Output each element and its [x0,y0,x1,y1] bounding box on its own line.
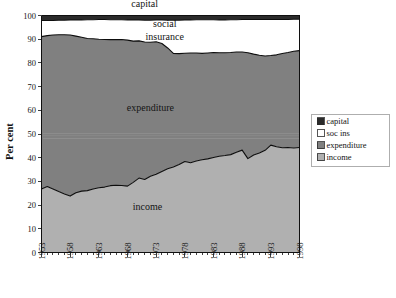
legend-swatch-expenditure [317,142,324,149]
annotation-capital: capital [131,0,158,9]
legend-label-expenditure: expenditure [327,140,367,150]
legend-swatch-income [317,154,324,161]
annotation-insurance: insurance [146,31,185,42]
annotation-expenditure: expenditure [127,102,175,113]
y-tick-label-90: 90 [28,34,37,44]
x-tick-label-1998: 1998 [295,243,305,260]
x-tick-label-1988: 1988 [237,243,247,260]
y-tick-label-50: 50 [28,129,37,139]
y-tick-label-20: 20 [28,200,37,210]
legend-label-income: income [327,152,352,162]
x-tick-label-1958: 1958 [65,243,75,260]
annotation-income: income [133,201,163,212]
y-tick-label-10: 10 [28,224,37,234]
y-tick-label-60: 60 [28,105,37,115]
x-tick-label-1953: 1953 [37,243,47,260]
x-tick-label-1973: 1973 [151,243,161,260]
annotation-social: social [153,18,177,29]
legend-label-capital: capital [327,116,350,126]
legend-swatch-soc-ins [317,130,324,137]
x-tick-label-1978: 1978 [180,243,190,260]
y-axis-title: Per cent [4,123,15,160]
y-tick-label-70: 70 [28,82,37,92]
legend-label-soc-ins: soc ins [327,128,350,138]
y-tick-label-0: 0 [32,248,36,258]
y-tick-label-30: 30 [28,176,37,186]
chart-canvas: 0102030405060708090100195319581963196819… [0,0,396,298]
y-tick-label-100: 100 [23,11,36,21]
x-tick-label-1993: 1993 [266,243,276,260]
legend-swatch-capital [317,118,324,125]
y-tick-label-80: 80 [28,58,37,68]
x-tick-label-1968: 1968 [123,243,133,260]
x-tick-label-1983: 1983 [209,243,219,260]
x-tick-label-1963: 1963 [94,243,104,260]
y-tick-label-40: 40 [28,153,37,163]
stacked-area-chart: 0102030405060708090100195319581963196819… [0,0,396,298]
